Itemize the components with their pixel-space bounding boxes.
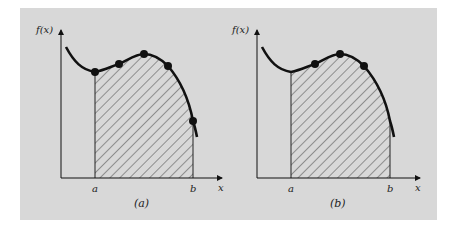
x-axis-label: x	[415, 182, 421, 193]
data-point	[336, 50, 344, 58]
data-point	[311, 60, 319, 68]
panel-a: f(x) x a b (a)	[35, 24, 224, 210]
upper-limit-label: b	[190, 183, 196, 194]
y-axis-label: f(x)	[35, 24, 53, 35]
data-point	[189, 117, 197, 125]
data-point	[140, 50, 148, 58]
x-axis-label: x	[218, 182, 224, 193]
data-point	[91, 68, 99, 76]
shaded-area	[95, 54, 193, 178]
shaded-area	[291, 54, 390, 178]
panel-b: f(x) x a b (b)	[231, 24, 421, 210]
upper-limit-label: b	[387, 183, 393, 194]
integration-figure: f(x) x a b (a) f(x) x a b (b)	[0, 0, 458, 236]
panel-caption: (b)	[330, 197, 346, 210]
data-point	[164, 62, 172, 70]
data-point	[360, 62, 368, 70]
y-axis-label: f(x)	[231, 24, 249, 35]
lower-limit-label: a	[288, 183, 294, 194]
panel-caption: (a)	[134, 197, 149, 210]
lower-limit-label: a	[92, 183, 98, 194]
data-point	[115, 60, 123, 68]
